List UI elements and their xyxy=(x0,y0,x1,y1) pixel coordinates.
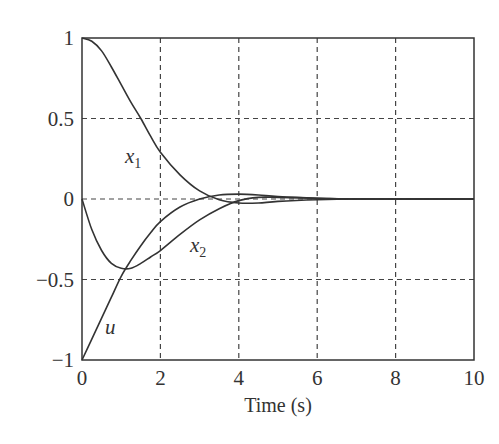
x-tick-label: 4 xyxy=(234,366,245,390)
curve-u xyxy=(82,194,474,360)
y-tick-label: 0 xyxy=(64,187,75,211)
curve-label-u: u xyxy=(105,315,116,339)
y-tick-label: −0.5 xyxy=(36,268,74,292)
chart: 0246810 10.50−0.5−1 Time (s) x1 x2 u xyxy=(0,0,499,444)
x-tick-label: 2 xyxy=(155,366,166,390)
y-tick-labels: 10.50−0.5−1 xyxy=(36,26,74,372)
y-tick-label: −1 xyxy=(52,348,74,372)
x-axis-label: Time (s) xyxy=(244,394,312,417)
x-tick-labels: 0246810 xyxy=(77,366,485,390)
x-tick-label: 0 xyxy=(77,366,88,390)
curve-label-x1: x1 xyxy=(124,144,141,171)
x-tick-label: 6 xyxy=(312,366,323,390)
curve-x1 xyxy=(82,38,474,203)
y-tick-label: 1 xyxy=(64,26,75,50)
y-tick-label: 0.5 xyxy=(48,107,74,131)
x-tick-label: 8 xyxy=(390,366,401,390)
curve-label-x2: x2 xyxy=(189,233,206,260)
x-tick-label: 10 xyxy=(464,366,485,390)
curve-x2 xyxy=(82,197,474,269)
